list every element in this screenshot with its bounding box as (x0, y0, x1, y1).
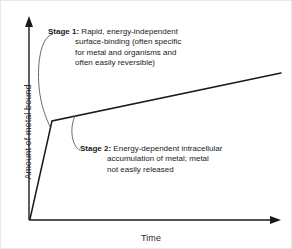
stage-2-first-line: Stage 2: Energy-dependent intracellular (80, 144, 285, 154)
x-axis-label: Time (141, 233, 161, 243)
stage-2-line-2: accumulation of metal; metal (80, 154, 285, 164)
stage-2-label: Stage 2: (80, 144, 111, 153)
stage-1-line-1: Rapid, energy-independent (81, 27, 178, 36)
x-axis-arrow-icon (270, 216, 281, 224)
stage-2-line-3: not easily released (80, 165, 285, 175)
figure-container: Amount of metal bound Time Stage 1: Rapi… (0, 0, 292, 249)
stage-1-line-4: often easily reversible) (48, 58, 244, 68)
stage-1-annotation: Stage 1: Rapid, energy-independent surfa… (48, 27, 244, 69)
stage-1-first-line: Stage 1: Rapid, energy-independent (48, 27, 244, 37)
stage-1-line-3: for metal and organisms and (48, 48, 244, 58)
stage-1-label: Stage 1: (48, 27, 79, 36)
stage-2-line-1: Energy-dependent intracellular (113, 144, 222, 153)
stage-2-annotation: Stage 2: Energy-dependent intracellular … (80, 144, 285, 175)
stage-1-line-2: surface-binding (often specific (48, 37, 244, 47)
y-axis-arrow-icon (25, 16, 33, 27)
y-axis-label: Amount of metal bound (23, 57, 33, 207)
stage2-leader-line (72, 116, 80, 150)
